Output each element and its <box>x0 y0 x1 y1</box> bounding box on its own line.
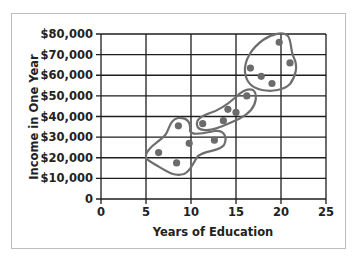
y-tick-label: $80,000 <box>41 27 93 41</box>
data-point <box>258 73 265 80</box>
x-tick-label: 5 <box>142 205 150 219</box>
y-axis-tick-labels: 0$10,000$20,000$30,000$40,000$50,000$60,… <box>41 27 93 206</box>
y-tick-label: $60,000 <box>41 68 93 82</box>
data-point <box>220 117 227 124</box>
y-tick-label: $70,000 <box>41 48 93 62</box>
y-tick-label: $40,000 <box>41 110 93 124</box>
y-axis-title: Income in One Year <box>27 54 41 180</box>
data-point <box>211 137 218 144</box>
data-points <box>155 39 294 167</box>
y-tick-label: $20,000 <box>41 151 93 165</box>
data-point <box>276 39 283 46</box>
data-point <box>232 109 239 116</box>
cluster-outline-1 <box>146 118 226 175</box>
data-point <box>175 122 182 129</box>
x-axis-tick-labels: 0510152025 <box>97 205 334 219</box>
data-point <box>224 106 231 113</box>
y-tick-label: $50,000 <box>41 89 93 103</box>
x-tick-label: 15 <box>228 205 244 219</box>
y-tick-label: $30,000 <box>41 130 93 144</box>
scatter-plot: 0$10,000$20,000$30,000$40,000$50,000$60,… <box>0 0 354 256</box>
data-point <box>173 159 180 166</box>
data-point <box>243 92 250 99</box>
y-tick-label: $10,000 <box>41 171 93 185</box>
x-axis-title: Years of Education <box>152 225 274 239</box>
y-tick-label: 0 <box>85 192 93 206</box>
data-point <box>247 64 254 71</box>
grid-lines <box>96 34 326 204</box>
data-point <box>268 80 275 87</box>
x-tick-label: 0 <box>97 205 105 219</box>
x-tick-label: 20 <box>273 205 289 219</box>
data-point <box>199 120 206 127</box>
x-tick-label: 25 <box>318 205 334 219</box>
data-point <box>155 149 162 156</box>
data-point <box>186 140 193 147</box>
data-point <box>286 59 293 66</box>
x-tick-label: 10 <box>183 205 199 219</box>
